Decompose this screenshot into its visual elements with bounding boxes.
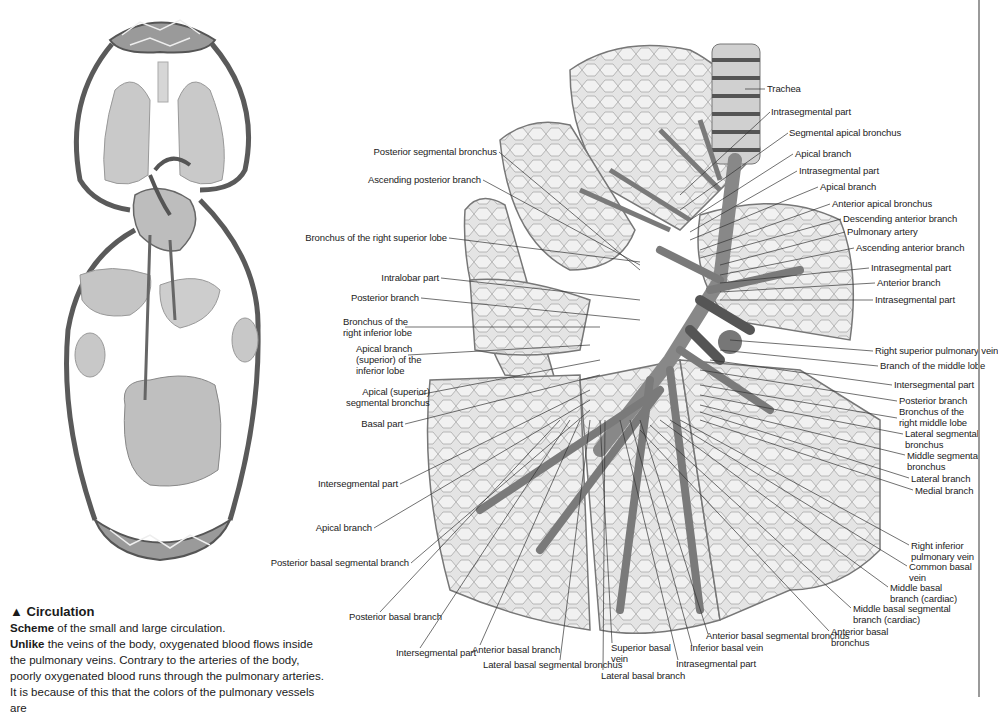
label-medial-branch: Medial branch [915, 485, 973, 496]
label-middle-segmental-bronchus: Middle segmentalbronchus [907, 450, 980, 472]
right-lung-bronchi-and-vessels-illustration [420, 30, 900, 670]
label-apical-branch: Apical branch [820, 181, 876, 192]
label-intersegmental-part: Intersegmental part [318, 478, 398, 489]
label-posterior-branch: Posterior branch [351, 292, 419, 303]
label-intrasegmental-part: Intrasegmental part [676, 658, 756, 669]
label-middle-basal-segmental-branch: Middle basal segmentalbranch (cardiac) [853, 603, 951, 625]
label-basal-part: Basal part [361, 418, 403, 429]
label-inferior-basal-vein: Inferior basal vein [690, 642, 763, 653]
label-bronchus-right-middle-lobe: Bronchus of theright middle lobe [899, 406, 967, 428]
label-posterior-branch: Posterior branch [899, 395, 967, 406]
label-descending-anterior-branch: Descending anterior branch [843, 213, 957, 224]
label-lateral-basal-branch: Lateral basal branch [601, 670, 685, 681]
label-superior-basal-vein: Superior basalvein [611, 642, 671, 664]
label-bronchus-right-inferior-lobe: Bronchus of theright inferior lobe [343, 316, 412, 338]
circulation-scheme-illustration [40, 0, 280, 580]
label-trachea: Trachea [767, 83, 801, 94]
label-intralobar-part: Intralobar part [381, 272, 439, 283]
label-middle-basal-branch-cardiac: Middle basalbranch (cardiac) [890, 582, 957, 604]
label-ascending-posterior-branch: Ascending posterior branch [368, 174, 481, 185]
label-anterior-apical-bronchus: Anterior apical bronchus [832, 198, 932, 209]
label-branch-of-middle-lobe: Branch of the middle lobe [880, 360, 985, 371]
label-apical-superior-segmental-bronchus: Apical (superior)segmental bronchus [346, 386, 430, 408]
label-posterior-basal-segmental-branch: Posterior basal segmental branch [271, 557, 409, 568]
label-right-inferior-pulmonary-vein: Right inferiorpulmonary vein [911, 540, 974, 562]
caption-title: ▲ Circulation [10, 604, 330, 620]
label-intrasegmental-part: Intrasegmental part [875, 294, 955, 305]
label-lateral-branch: Lateral branch [911, 473, 970, 484]
label-anterior-basal-branch: Anterior basal branch [472, 644, 560, 655]
label-common-basal-vein: Common basalvein [909, 561, 972, 583]
label-pulmonary-artery: Pulmonary artery [847, 226, 918, 237]
label-ascending-anterior-branch: Ascending anterior branch [856, 242, 964, 253]
triangle-up-icon: ▲ [10, 604, 23, 619]
page-edge-rule [978, 0, 980, 697]
label-bronchus-right-superior-lobe: Bronchus of the right superior lobe [305, 232, 447, 243]
label-apical-branch: Apical branch [316, 522, 372, 533]
figure-caption: ▲ Circulation Scheme of the small and la… [10, 604, 330, 716]
label-intersegmental-part: Intersegmental part [894, 379, 974, 390]
label-lateral-basal-segmental-bronchus: Lateral basal segmental bronchus [483, 659, 622, 670]
label-segmental-apical-bronchus: Segmental apical bronchus [789, 127, 901, 138]
label-anterior-branch: Anterior branch [877, 277, 940, 288]
label-apical-branch-superior-inferior-lobe: Apical branch(superior) of theinferior l… [356, 343, 421, 376]
label-anterior-basal-segmental-bronchus: Anterior basal segmental bronchus [706, 630, 850, 641]
label-intrasegmental-part: Intrasegmental part [771, 106, 851, 117]
caption-paragraph: Unlike the veins of the body, oxygenated… [10, 636, 330, 716]
caption-line: Scheme of the small and large circulatio… [10, 620, 330, 636]
label-posterior-basal-branch: Posterior basal branch [349, 611, 442, 622]
label-intersegmental-part: Intersegmental part [396, 647, 476, 658]
label-posterior-segmental-bronchus: Posterior segmental bronchus [374, 146, 497, 157]
label-apical-branch: Apical branch [795, 148, 851, 159]
label-intrasegmental-part: Intrasegmental part [799, 165, 879, 176]
label-intrasegmental-part: Intrasegmental part [871, 262, 951, 273]
label-lateral-segmental-bronchus: Lateral segmentalbronchus [905, 428, 979, 450]
